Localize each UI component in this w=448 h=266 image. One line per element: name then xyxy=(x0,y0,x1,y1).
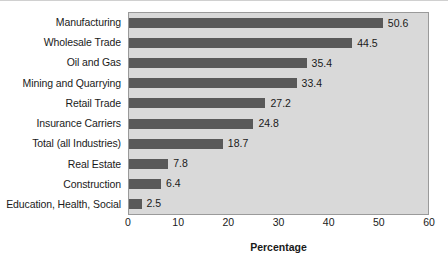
category-label: Total (all Industries) xyxy=(32,138,121,149)
category-axis: ManufacturingWholesale TradeOil and GasM… xyxy=(0,12,125,215)
category-label: Real Estate xyxy=(68,159,121,170)
x-tick-label: 40 xyxy=(323,216,335,228)
bar-value-label: 35.4 xyxy=(312,58,332,69)
category-label: Oil and Gas xyxy=(67,57,121,68)
bar xyxy=(129,78,297,88)
category-tick: Wholesale Trade xyxy=(0,32,125,52)
bar-row: 6.4 xyxy=(129,174,428,194)
bar xyxy=(129,179,161,189)
bar-row: 2.5 xyxy=(129,194,428,214)
category-label: Construction xyxy=(63,179,121,190)
bar-value-label: 7.8 xyxy=(173,158,188,169)
category-label: Mining and Quarrying xyxy=(23,78,121,89)
bar-value-label: 27.2 xyxy=(270,98,290,109)
bar-value-label: 18.7 xyxy=(228,138,248,149)
bar-value-label: 33.4 xyxy=(302,78,322,89)
bar-value-label: 6.4 xyxy=(166,178,181,189)
category-tick: Mining and Quarrying xyxy=(0,73,125,93)
category-label: Retail Trade xyxy=(66,98,121,109)
bar-row: 50.6 xyxy=(129,13,428,33)
x-tick-label: 60 xyxy=(423,216,435,228)
bar-value-label: 24.8 xyxy=(258,118,278,129)
bar-row: 33.4 xyxy=(129,73,428,93)
x-axis: 0102030405060 xyxy=(128,216,429,232)
x-tick-label: 10 xyxy=(172,216,184,228)
category-tick: Retail Trade xyxy=(0,93,125,113)
bar-row: 24.8 xyxy=(129,113,428,133)
bar xyxy=(129,58,307,68)
category-tick: Education, Health, Social xyxy=(0,195,125,215)
bar xyxy=(129,139,223,149)
bar-row: 27.2 xyxy=(129,93,428,113)
category-label: Insurance Carriers xyxy=(36,118,121,129)
category-tick: Insurance Carriers xyxy=(0,113,125,133)
x-tick-label: 20 xyxy=(222,216,234,228)
x-tick-label: 30 xyxy=(273,216,285,228)
bar xyxy=(129,159,168,169)
x-axis-title: Percentage xyxy=(128,241,429,253)
x-tick-label: 0 xyxy=(125,216,131,228)
x-tick-label: 50 xyxy=(373,216,385,228)
category-tick: Total (all Industries) xyxy=(0,134,125,154)
bar-value-label: 44.5 xyxy=(357,38,377,49)
bar xyxy=(129,38,352,48)
bars-layer: 50.644.535.433.427.224.818.77.86.42.5 xyxy=(129,13,428,214)
bar-value-label: 50.6 xyxy=(388,18,408,29)
bar xyxy=(129,98,265,108)
bar-row: 18.7 xyxy=(129,134,428,154)
category-tick: Oil and Gas xyxy=(0,53,125,73)
category-tick: Construction xyxy=(0,174,125,194)
bar-row: 7.8 xyxy=(129,154,428,174)
bar-value-label: 2.5 xyxy=(147,198,162,209)
category-label: Education, Health, Social xyxy=(6,199,121,210)
bar xyxy=(129,199,142,209)
plot-area: 50.644.535.433.427.224.818.77.86.42.5 xyxy=(128,12,429,215)
bar-row: 44.5 xyxy=(129,33,428,53)
category-tick: Manufacturing xyxy=(0,12,125,32)
bar-chart: ManufacturingWholesale TradeOil and GasM… xyxy=(0,0,448,266)
category-label: Manufacturing xyxy=(56,17,121,28)
bar xyxy=(129,18,383,28)
bar xyxy=(129,119,253,129)
category-label: Wholesale Trade xyxy=(44,37,121,48)
bar-row: 35.4 xyxy=(129,53,428,73)
category-tick: Real Estate xyxy=(0,154,125,174)
